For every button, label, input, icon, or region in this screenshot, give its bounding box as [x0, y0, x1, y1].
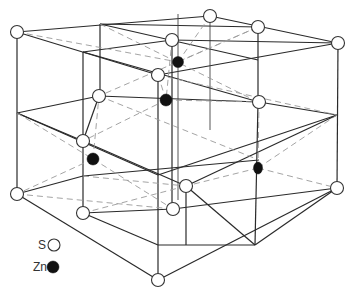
legend-zn-symbol-icon — [47, 261, 59, 273]
zinc-blende-structure-diagram: S Zn — [0, 0, 354, 300]
legend: S Zn — [33, 238, 60, 274]
s-atom — [167, 203, 180, 216]
s-atom — [93, 90, 106, 103]
s-atom — [152, 69, 165, 82]
s-atom — [331, 182, 344, 195]
legend-label-s: S — [38, 238, 46, 252]
s-atom — [77, 135, 90, 148]
s-atom — [11, 26, 24, 39]
zn-atom — [173, 57, 184, 68]
outer-cube-edges — [17, 16, 338, 280]
s-atom — [332, 37, 345, 50]
s-atom — [204, 10, 217, 23]
s-atom — [77, 207, 90, 220]
s-atom — [166, 34, 179, 47]
s-atom — [252, 21, 265, 34]
zn-atom — [87, 153, 99, 165]
s-atom — [180, 180, 193, 193]
s-atom — [253, 96, 266, 109]
zn-atom — [160, 94, 172, 106]
legend-label-zn: Zn — [33, 260, 47, 274]
tetrahedral-bond-lines — [17, 16, 337, 213]
legend-s-symbol-icon — [48, 239, 60, 251]
s-atom — [11, 188, 24, 201]
zn-atom — [254, 162, 263, 174]
s-atom — [152, 274, 165, 287]
zinc-atoms — [87, 57, 263, 175]
